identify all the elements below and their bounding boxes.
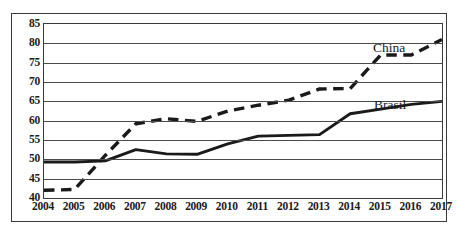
x-tick-label: 2017 <box>424 200 457 212</box>
x-axis: 2004200520062007200820092010201120122013… <box>43 200 441 220</box>
gridline <box>44 179 442 180</box>
y-tick-label: 65 <box>12 95 40 106</box>
gridline <box>44 159 442 160</box>
x-tick-label: 2012 <box>271 200 305 212</box>
x-tick-label: 2004 <box>26 200 60 212</box>
x-tick-label: 2010 <box>210 200 244 212</box>
y-tick-label: 75 <box>12 56 40 67</box>
brasil-series-label: Brasil <box>374 97 406 113</box>
gridline <box>44 63 442 64</box>
y-tick-label: 70 <box>12 76 40 87</box>
y-axis: 40455055606570758085 <box>12 14 43 223</box>
gridline <box>44 140 442 141</box>
x-tick-label: 2016 <box>393 200 427 212</box>
y-tick-label: 45 <box>12 172 40 183</box>
x-tick-label: 2007 <box>118 200 152 212</box>
x-tick-label: 2006 <box>87 200 121 212</box>
gridline <box>44 82 442 83</box>
y-tick-label: 60 <box>12 114 40 125</box>
x-tick-label: 2009 <box>179 200 213 212</box>
y-tick-label: 85 <box>12 18 40 29</box>
y-tick-label: 50 <box>12 153 40 164</box>
x-tick-label: 2005 <box>57 200 91 212</box>
x-tick-label: 2014 <box>332 200 366 212</box>
x-tick-label: 2015 <box>363 200 397 212</box>
x-tick-label: 2013 <box>302 200 336 212</box>
line-chart-figure: 40455055606570758085 2004200520062007200… <box>11 13 447 222</box>
y-tick-label: 80 <box>12 37 40 48</box>
x-tick-label: 2008 <box>148 200 182 212</box>
y-tick-label: 55 <box>12 134 40 145</box>
x-tick-label: 2011 <box>240 200 274 212</box>
china-series-label: China <box>373 40 405 56</box>
gridline <box>44 121 442 122</box>
